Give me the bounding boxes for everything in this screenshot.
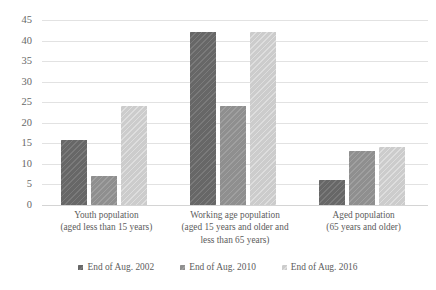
chart-legend: End of Aug. 2002End of Aug. 2010End of A… (0, 262, 436, 272)
plot-area (42, 20, 428, 205)
bar[interactable] (349, 151, 375, 205)
legend-swatch-icon (78, 265, 83, 270)
y-tick-label-25: 25 (22, 97, 33, 108)
legend-label: End of Aug. 2010 (189, 262, 256, 272)
legend-label: End of Aug. 2016 (291, 262, 358, 272)
legend-swatch-icon (282, 265, 287, 270)
bar[interactable] (379, 147, 405, 205)
bar[interactable] (121, 106, 147, 205)
y-tick-label-15: 15 (22, 138, 33, 149)
bar-group (42, 20, 171, 205)
y-tick-label-35: 35 (22, 56, 33, 67)
bar[interactable] (190, 32, 216, 205)
legend-swatch-icon (180, 265, 185, 270)
bar[interactable] (91, 176, 117, 205)
y-tick-label-40: 40 (22, 35, 33, 46)
gridline-0 (42, 205, 428, 206)
bar[interactable] (319, 180, 345, 205)
bar-group (171, 20, 300, 205)
bar[interactable] (61, 140, 87, 205)
y-axis: 051015202530354045 (0, 20, 38, 205)
legend-item[interactable]: End of Aug. 2002 (78, 262, 154, 272)
category-label-line: less than 65 years) (151, 234, 320, 246)
legend-item[interactable]: End of Aug. 2010 (180, 262, 256, 272)
bar[interactable] (250, 32, 276, 205)
y-tick-label-30: 30 (22, 76, 33, 87)
category-label-line: (65 years and older) (279, 221, 436, 233)
legend-item[interactable]: End of Aug. 2016 (282, 262, 358, 272)
y-tick-label-45: 45 (22, 15, 33, 26)
category-label-line: Aged population (279, 209, 436, 221)
legend-label: End of Aug. 2002 (87, 262, 154, 272)
bar-chart: 051015202530354045 Youth population(aged… (0, 0, 436, 290)
bar[interactable] (220, 106, 246, 205)
x-axis-category-labels: Youth population(aged less than 15 years… (42, 209, 428, 257)
bar-group (299, 20, 428, 205)
category-label: Aged population(65 years and older) (279, 209, 436, 234)
y-tick-label-20: 20 (22, 118, 33, 129)
y-tick-label-5: 5 (27, 179, 32, 190)
y-tick-label-10: 10 (22, 159, 33, 170)
